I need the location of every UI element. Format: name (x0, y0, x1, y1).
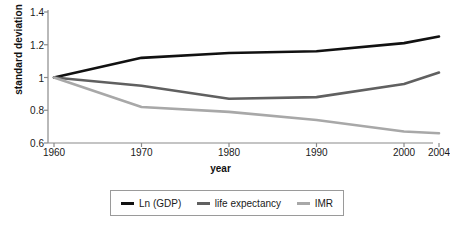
legend-label: Ln (GDP) (139, 198, 181, 209)
series-line (54, 73, 439, 99)
legend-swatch-icon (297, 202, 310, 205)
x-tick-label: 1960 (43, 147, 65, 158)
legend-item-imr: IMR (297, 198, 333, 209)
legend-label: life expectancy (215, 198, 281, 209)
axis-lines (48, 10, 433, 143)
series-line (54, 37, 439, 78)
x-tick-label: 2000 (393, 147, 415, 158)
legend-item-ln-gdp: Ln (GDP) (121, 198, 181, 209)
x-tick-label: 1980 (218, 147, 240, 158)
legend-swatch-icon (197, 202, 210, 205)
x-tick-label: 2004 (428, 147, 450, 158)
x-tick-label: 1970 (130, 147, 152, 158)
x-tick-marks (54, 143, 439, 147)
chart-legend: Ln (GDP) life expectancy IMR (110, 190, 344, 216)
series-line (54, 78, 439, 134)
legend-item-life-expectancy: life expectancy (197, 198, 281, 209)
x-axis-label: year (0, 163, 441, 174)
series-lines (54, 37, 439, 134)
x-tick-label: 1990 (305, 147, 327, 158)
legend-label: IMR (315, 198, 333, 209)
legend-swatch-icon (121, 202, 134, 205)
